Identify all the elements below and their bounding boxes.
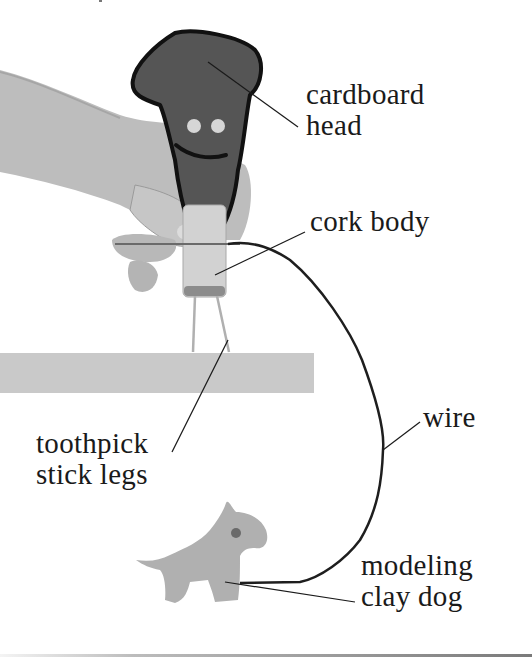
label-legs-line2: stick legs [36, 459, 148, 490]
label-legs-line1: toothpick [36, 428, 148, 459]
toothpick-legs [193, 296, 229, 352]
label-head-line2: head [306, 110, 425, 141]
label-toothpick-legs: toothpick stick legs [36, 428, 148, 490]
labeled-diagram: cardboard head cork body toothpick stick… [0, 0, 532, 657]
label-wire-line1: wire [423, 402, 476, 433]
label-cardboard-head: cardboard head [306, 79, 425, 141]
label-body-line1: cork body [310, 206, 429, 237]
label-head-line1: cardboard [306, 79, 425, 110]
label-cork-body: cork body [310, 206, 429, 237]
label-dog-line1: modeling [361, 550, 473, 581]
label-modeling-clay-dog: modeling clay dog [361, 550, 473, 612]
clay-dog [136, 502, 267, 603]
label-wire: wire [423, 402, 476, 433]
edge-mark [99, 0, 102, 2]
table-edge [0, 353, 314, 393]
label-dog-line2: clay dog [361, 581, 473, 612]
leader-wire [383, 422, 420, 450]
leader-dog [225, 582, 355, 602]
